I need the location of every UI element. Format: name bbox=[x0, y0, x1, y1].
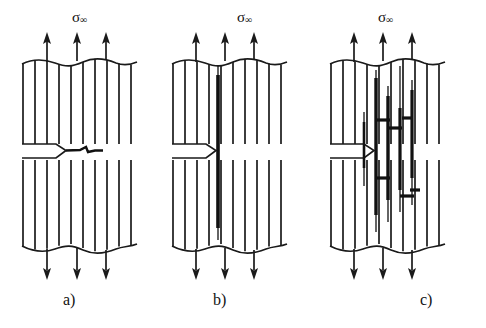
figure-fracture-modes: σ∞ bbox=[0, 0, 486, 328]
panel-a-drawing bbox=[0, 0, 170, 300]
panel-label-a: a) bbox=[63, 292, 75, 308]
panel-b-drawing bbox=[165, 0, 325, 300]
panel-c: σ∞ bbox=[320, 0, 486, 328]
edge-notch-c bbox=[330, 144, 374, 158]
panel-label-b: b) bbox=[213, 292, 226, 308]
panel-a: σ∞ bbox=[0, 0, 170, 328]
load-arrows-bottom-b bbox=[196, 248, 254, 270]
load-arrows-bottom-c bbox=[354, 248, 412, 270]
load-arrows-bottom-a bbox=[47, 248, 106, 270]
transverse-crack-a bbox=[66, 147, 103, 152]
panel-c-drawing bbox=[320, 0, 486, 300]
panel-b: σ∞ bbox=[165, 0, 325, 328]
edge-notch-a bbox=[22, 144, 66, 158]
panel-label-c: c) bbox=[420, 292, 432, 308]
edge-notch-b bbox=[172, 144, 216, 158]
